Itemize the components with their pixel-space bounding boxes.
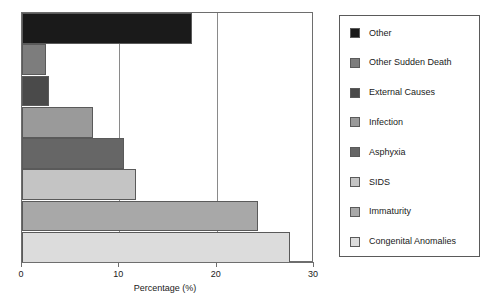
plot-area	[21, 12, 313, 262]
bar-external-causes	[22, 76, 49, 107]
legend-item-label: Other Sudden Death	[369, 57, 452, 68]
x-tick-label-0: 0	[18, 269, 23, 280]
tick-mark-30	[313, 262, 314, 267]
legend-item-label: Asphyxia	[369, 147, 406, 158]
legend-swatch-icon	[350, 88, 360, 98]
legend-item[interactable]: Asphyxia	[350, 146, 406, 158]
legend-item[interactable]: SIDS	[350, 176, 390, 188]
bar-infection	[22, 107, 93, 138]
legend-item-label: SIDS	[369, 177, 390, 188]
legend-item[interactable]: Congenital Anomalies	[350, 236, 456, 248]
tick-mark-0	[21, 262, 22, 267]
bar-sids	[22, 169, 136, 200]
legend-item-label: Infection	[369, 117, 403, 128]
legend-swatch-icon	[350, 58, 360, 68]
x-tick-label-10: 10	[113, 269, 123, 280]
legend-swatch-icon	[350, 117, 360, 127]
legend-item[interactable]: Other Sudden Death	[350, 57, 452, 69]
bar-other-sudden-death	[22, 44, 46, 75]
legend-swatch-icon	[350, 147, 360, 157]
legend-swatch-icon	[350, 177, 360, 187]
bar-immaturity	[22, 201, 258, 232]
legend-item-label: External Causes	[369, 87, 435, 98]
tick-mark-10	[118, 262, 119, 267]
x-tick-label-30: 30	[308, 269, 318, 280]
x-axis-line	[21, 262, 313, 263]
chart-legend: OtherOther Sudden DeathExternal CausesIn…	[339, 15, 480, 257]
legend-item-label: Immaturity	[369, 206, 411, 217]
bar-other	[22, 13, 192, 44]
bar-congenital-anomalies	[22, 232, 290, 263]
bar-chart-figure: 0102030 Percentage (%)	[0, 0, 330, 301]
legend-swatch-icon	[350, 207, 360, 217]
legend-item[interactable]: Immaturity	[350, 206, 411, 218]
legend-swatch-icon	[350, 28, 360, 38]
legend-item-label: Congenital Anomalies	[369, 236, 456, 247]
legend-item-label: Other	[369, 28, 392, 39]
legend-swatch-icon	[350, 237, 360, 247]
legend-item[interactable]: External Causes	[350, 87, 435, 99]
x-axis-title: Percentage (%)	[0, 283, 330, 293]
legend-item[interactable]: Other	[350, 27, 392, 39]
bar-asphyxia	[22, 138, 124, 169]
x-tick-label-20: 20	[211, 269, 221, 280]
legend-item[interactable]: Infection	[350, 116, 403, 128]
bars-container	[22, 13, 312, 261]
tick-mark-20	[216, 262, 217, 267]
